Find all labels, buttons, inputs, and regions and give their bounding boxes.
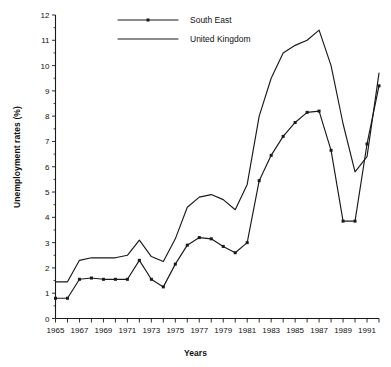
x-tick-label: 1985	[286, 326, 304, 335]
x-tick-label: 1977	[190, 326, 208, 335]
x-tick-label: 1965	[47, 326, 65, 335]
data-point-marker	[318, 110, 321, 113]
chart-legend: South EastUnited Kingdom	[118, 15, 250, 44]
y-tick-label: 4	[45, 213, 50, 222]
legend-marker-sample	[147, 19, 150, 22]
data-point-marker	[306, 111, 309, 114]
x-tick-label: 1969	[95, 326, 113, 335]
series-line-united-kingdom	[56, 30, 380, 282]
data-point-marker	[222, 245, 225, 248]
x-tick-label: 1979	[214, 326, 232, 335]
data-point-marker	[114, 278, 117, 281]
data-point-marker	[90, 277, 93, 280]
legend-label: South East	[190, 15, 232, 25]
data-point-marker	[270, 154, 273, 157]
y-tick-label: 2	[45, 264, 50, 273]
data-point-marker	[378, 84, 381, 87]
x-tick-label: 1981	[238, 326, 256, 335]
x-tick-label: 1989	[334, 326, 352, 335]
data-point-marker	[366, 142, 369, 145]
data-point-marker	[354, 220, 357, 223]
data-series-group	[54, 30, 381, 300]
data-point-marker	[102, 278, 105, 281]
data-point-marker	[282, 135, 285, 138]
x-tick-label: 1967	[71, 326, 89, 335]
data-point-marker	[186, 244, 189, 247]
y-axis-title: Unemployment rates (%)	[12, 97, 22, 217]
y-tick-label: 9	[45, 87, 50, 96]
y-tick-label: 0	[45, 315, 50, 324]
data-point-marker	[126, 278, 129, 281]
data-point-marker	[54, 297, 57, 300]
x-tick-label: 1973	[142, 326, 160, 335]
legend-label: United Kingdom	[190, 34, 250, 44]
chart-plot-area: 0123456789101112 19651967196919711973197…	[0, 0, 391, 367]
x-tick-label: 1975	[166, 326, 184, 335]
x-axis-title: Years	[0, 348, 391, 358]
y-tick-label: 6	[45, 163, 50, 172]
y-tick-label: 7	[45, 137, 50, 146]
data-point-marker	[150, 278, 153, 281]
data-point-marker	[234, 251, 237, 254]
y-tick-label: 11	[41, 36, 50, 45]
y-tick-label: 8	[45, 112, 50, 121]
x-tick-label: 1971	[118, 326, 136, 335]
data-point-marker	[174, 263, 177, 266]
y-tick-label: 5	[45, 188, 50, 197]
data-point-marker	[246, 241, 249, 244]
data-point-marker	[210, 237, 213, 240]
data-point-marker	[162, 285, 165, 288]
x-tick-label: 1983	[262, 326, 280, 335]
x-tick-label: 1991	[358, 326, 376, 335]
data-point-marker	[66, 297, 69, 300]
data-point-marker	[198, 236, 201, 239]
y-axis: 0123456789101112	[41, 11, 56, 324]
y-tick-label: 10	[41, 62, 50, 71]
data-point-marker	[342, 220, 345, 223]
data-point-marker	[78, 278, 81, 281]
y-tick-label: 1	[45, 289, 50, 298]
unemployment-rates-line-chart: 0123456789101112 19651967196919711973197…	[0, 0, 391, 367]
series-line-south-east	[56, 86, 380, 298]
x-tick-label: 1987	[310, 326, 328, 335]
data-point-marker	[138, 259, 141, 262]
data-point-marker	[330, 149, 333, 152]
data-point-marker	[258, 179, 261, 182]
data-point-marker	[294, 121, 297, 124]
y-tick-label: 12	[41, 11, 50, 20]
x-axis: 1965196719691971197319751977197919811983…	[47, 319, 379, 336]
y-tick-label: 3	[45, 239, 50, 248]
